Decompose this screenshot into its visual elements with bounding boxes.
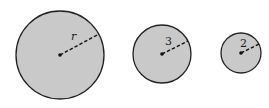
center-dot	[160, 52, 164, 56]
radius-label: r	[71, 30, 77, 43]
circle-large: r	[16, 11, 104, 99]
circle-small: 2	[221, 33, 261, 73]
radius-label: 3	[165, 35, 172, 48]
diagram-svg: r 3 2	[0, 0, 269, 108]
circles-diagram: r 3 2	[0, 0, 269, 108]
center-dot	[58, 53, 62, 57]
center-dot	[239, 51, 243, 55]
radius-label: 2	[240, 37, 247, 50]
circle-medium: 3	[133, 25, 191, 83]
